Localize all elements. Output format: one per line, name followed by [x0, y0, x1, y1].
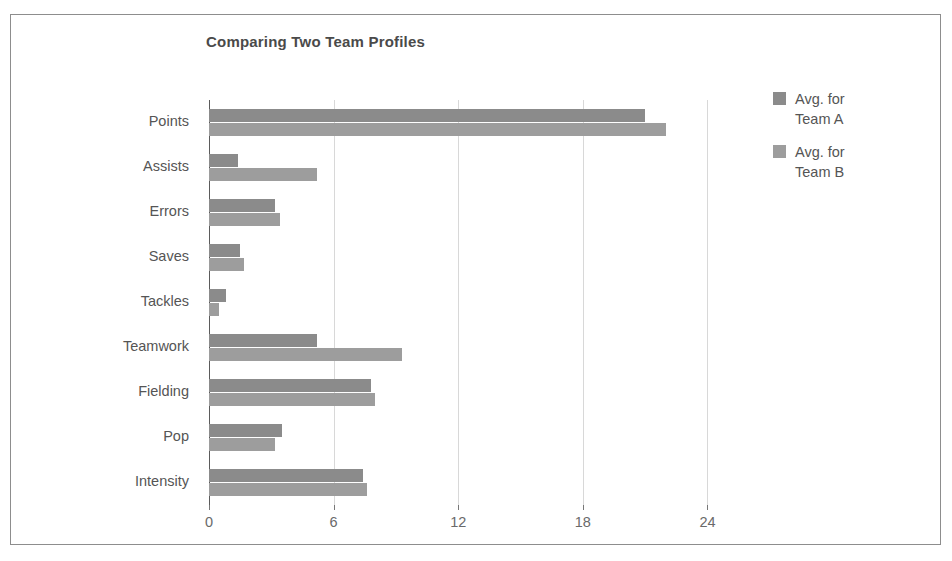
tick-mark [707, 505, 708, 510]
plot-area [209, 100, 749, 505]
legend-label: Avg. for Team B [795, 142, 845, 182]
bar [209, 438, 275, 451]
bar [209, 168, 317, 181]
bar [209, 469, 363, 482]
bar [209, 483, 367, 496]
bar [209, 244, 240, 257]
bar [209, 393, 375, 406]
tick-mark [583, 505, 584, 510]
category-label-intensity: Intensity [135, 473, 189, 489]
bar [209, 334, 317, 347]
legend-swatch-icon [773, 92, 786, 105]
bar [209, 348, 402, 361]
bar-group [209, 460, 749, 505]
tick-label-0: 0 [205, 514, 213, 530]
bar [209, 424, 282, 437]
category-axis-labels: PointsAssistsErrorsSavesTacklesTeamworkF… [51, 100, 201, 505]
bar [209, 154, 238, 167]
tick-label-6: 6 [330, 514, 338, 530]
category-label-tackles: Tackles [141, 293, 189, 309]
tick-mark [458, 505, 459, 510]
bar [209, 303, 219, 316]
value-axis: 06121824 [209, 505, 749, 539]
category-label-teamwork: Teamwork [123, 338, 189, 354]
chart-legend: Avg. for Team AAvg. for Team B [773, 89, 933, 195]
bar-group [209, 190, 749, 235]
bar [209, 289, 226, 302]
tick-mark [209, 505, 210, 510]
bars-layer [209, 100, 749, 505]
legend-item[interactable]: Avg. for Team A [773, 89, 933, 129]
bar [209, 123, 666, 136]
category-label-points: Points [149, 113, 189, 129]
category-label-fielding: Fielding [138, 383, 189, 399]
bar [209, 199, 275, 212]
legend-label: Avg. for Team A [795, 89, 845, 129]
tick-label-24: 24 [699, 514, 715, 530]
legend-swatch-icon [773, 145, 786, 158]
tick-label-18: 18 [575, 514, 591, 530]
category-label-assists: Assists [143, 158, 189, 174]
chart-frame: Comparing Two Team Profiles PointsAssist… [10, 14, 941, 545]
bar [209, 213, 280, 226]
bar-group [209, 235, 749, 280]
chart-title: Comparing Two Team Profiles [206, 33, 425, 50]
bar-group [209, 100, 749, 145]
bar [209, 379, 371, 392]
bar-group [209, 280, 749, 325]
bar [209, 258, 244, 271]
bar-group [209, 145, 749, 190]
category-label-saves: Saves [149, 248, 189, 264]
category-label-pop: Pop [163, 428, 189, 444]
bar-group [209, 415, 749, 460]
legend-item[interactable]: Avg. for Team B [773, 142, 933, 182]
tick-mark [334, 505, 335, 510]
tick-label-12: 12 [450, 514, 466, 530]
bar-group [209, 325, 749, 370]
bar-group [209, 370, 749, 415]
bar [209, 109, 645, 122]
category-label-errors: Errors [150, 203, 189, 219]
